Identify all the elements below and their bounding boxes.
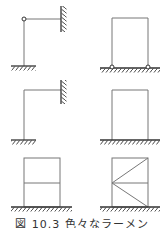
- frame-c: [11, 80, 67, 145]
- frame-d: [100, 90, 160, 145]
- frames-diagram: [0, 0, 164, 228]
- hinge-icon: [146, 65, 150, 69]
- frame-e: [11, 158, 72, 212]
- hinge-icon: [110, 65, 114, 69]
- frame-b: [100, 18, 160, 73]
- hinge-icon: [22, 17, 26, 21]
- frame-a: [11, 6, 67, 71]
- figure-caption: 図 10.3 色々なラーメン: [0, 215, 164, 228]
- frame-f: [100, 158, 160, 212]
